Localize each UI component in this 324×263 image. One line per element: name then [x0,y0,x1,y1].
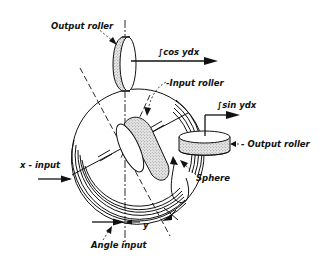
label-cos-output: ∫cos ydx [158,47,200,57]
label-sphere: Sphere [196,173,230,183]
label-output-roller-right: - Output roller [241,139,311,149]
leader-arrowhead-angle [106,226,112,234]
cos-output-arrow [131,57,218,65]
x-input-arrow [38,176,72,183]
label-output-roller-top: Output roller [51,21,114,31]
sphere-integrator-diagram: Output roller ∫cos ydx -Input roller ∫si… [0,0,324,263]
leader-arrowhead-top [109,37,117,45]
label-y: y [143,220,149,230]
output-roller-top [113,37,136,91]
leader-arrowhead-right [230,141,236,147]
label-input-roller: -Input roller [166,78,225,88]
label-sin-output: ∫sin ydx [217,100,257,110]
label-x-input: x - input [19,160,61,170]
label-angle-input: Angle input [90,240,147,250]
